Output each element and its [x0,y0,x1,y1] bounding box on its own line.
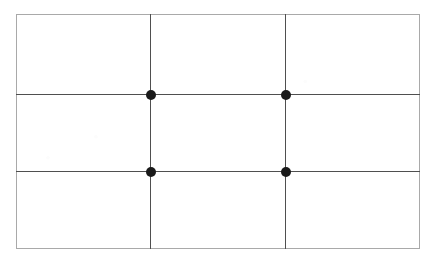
power-point-top-right-dot [281,90,291,100]
grid-line-vertical-left [150,14,151,249]
power-point-bottom-right-dot [281,167,291,177]
diagram-canvas [0,0,436,263]
grid-line-horizontal-lower [16,171,420,172]
composition-frame [16,14,420,249]
grid-line-vertical-right [285,14,286,249]
power-point-top-left-dot [146,90,156,100]
grid-line-horizontal-upper [16,94,420,95]
power-point-bottom-left-dot [146,167,156,177]
